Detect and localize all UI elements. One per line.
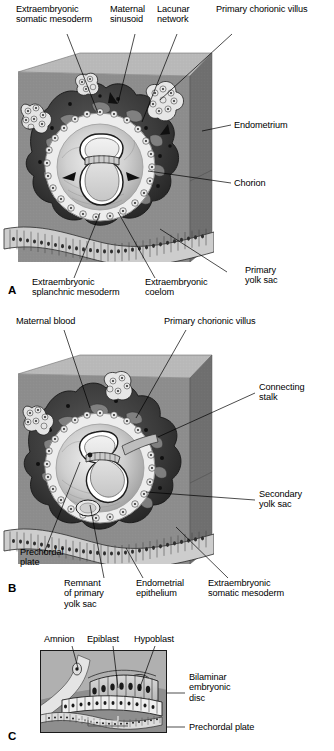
panel-letter-a: A (8, 285, 16, 297)
label-hypoblast: Hypoblast (134, 634, 174, 644)
label-extraembryonic-somatic-mesoderm-b: Extraembryonic somatic mesoderm (208, 578, 284, 599)
villus-right (146, 81, 183, 120)
villus-top-center (76, 73, 99, 95)
panel-letter-b: B (8, 583, 16, 595)
label-maternal-sinusoid: Maternal sinusoid (110, 4, 145, 25)
label-primary-chorionic-villus-a: Primary chorionic villus (216, 4, 308, 14)
label-primary-chorionic-villus-b: Primary chorionic villus (164, 316, 256, 326)
figure-implantation-stages: Extraembryonic somatic mesoderm Maternal… (0, 0, 334, 751)
label-endometrium: Endometrium (234, 120, 288, 130)
label-endometrial-epithelium: Endometrial epithelium (136, 578, 184, 599)
label-extraembryonic-somatic-mesoderm-a: Extraembryonic somatic mesoderm (16, 4, 92, 25)
villus-left-b (23, 406, 53, 435)
label-amnion: Amnion (44, 634, 75, 644)
label-remnant-of-primary-yolk-sac: Remnant of primary yolk sac (64, 578, 104, 609)
panel-a-artwork (4, 53, 214, 266)
label-extraembryonic-coelom: Extraembryonic coelom (145, 277, 207, 298)
label-maternal-blood: Maternal blood (16, 316, 75, 326)
label-primary-yolk-sac: Primary yolk sac (245, 265, 277, 286)
label-prechordal-plate-b: Prechordal plate (20, 547, 63, 568)
villus-left (21, 104, 51, 133)
label-chorion: Chorion (234, 178, 265, 188)
panel-letter-c: C (8, 731, 16, 743)
label-lacunar-network: Lacunar network (157, 4, 190, 25)
label-connecting-stalk: Connecting stalk (259, 382, 304, 403)
label-bilaminar-embryonic-disc: Bilaminar embryonic disc (189, 672, 230, 703)
label-epiblast: Epiblast (87, 634, 119, 644)
label-extraembryonic-splanchnic-mesoderm: Extraembryonic splanchnic mesoderm (32, 277, 119, 298)
label-prechordal-plate-c: Prechordal plate (189, 722, 254, 732)
panel-b-artwork (4, 355, 214, 568)
villus-center-b (104, 371, 132, 400)
leader-lines (44, 34, 255, 727)
panel-c-image-frame (40, 650, 167, 733)
label-secondary-yolk-sac: Secondary yolk sac (259, 489, 302, 510)
